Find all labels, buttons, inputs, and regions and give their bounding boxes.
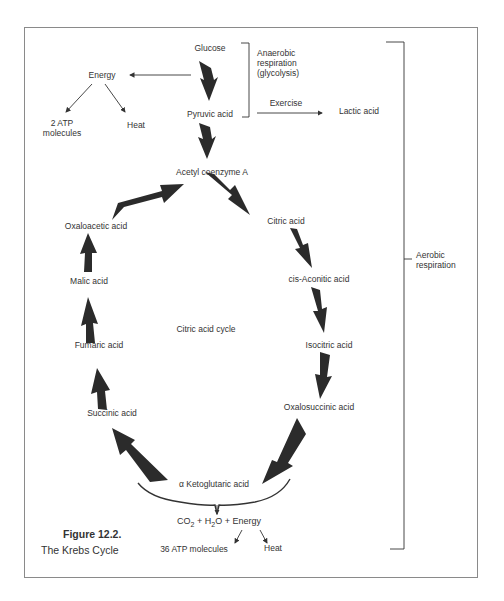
label-36-atp: 36 ATP molecules: [160, 544, 228, 554]
label-fumaric-acid: Fumaric acid: [75, 340, 124, 350]
label-aerobic-respiration: Aerobic respiration: [416, 250, 456, 270]
arrow-isocitric-oxalosuccinic: [315, 352, 332, 399]
arrow-oxalosuccinic-ketoglutaric: [262, 418, 306, 484]
label-energy: Energy: [89, 70, 116, 80]
arrow-succinic-fumaric: [91, 368, 110, 410]
figure-title: The Krebs Cycle: [41, 544, 119, 556]
arrow-citric-cisaconitic: [290, 228, 312, 268]
arrow-fumaric-malic: [81, 297, 98, 343]
arrow-pyruvic-acetyl: [198, 123, 216, 159]
label-citric-acid: Citric acid: [267, 216, 304, 226]
label-pyruvic-acid: Pyruvic acid: [187, 109, 233, 119]
label-heat-glycolysis: Heat: [127, 120, 145, 130]
label-cis-aconitic-acid: cis-Aconitic acid: [289, 274, 350, 284]
label-exercise: Exercise: [270, 98, 303, 108]
krebs-cycle-arrows: [0, 0, 504, 601]
label-glucose: Glucose: [194, 43, 225, 53]
figure-number: Figure 12.2.: [63, 528, 121, 540]
arrow-ketoglutaric-succinic: [112, 428, 168, 482]
label-citric-acid-cycle: Citric acid cycle: [176, 324, 235, 334]
label-oxaloacetic-acid: Oxaloacetic acid: [65, 221, 127, 231]
arrow-malic-oxaloacetic: [80, 233, 97, 272]
arrow-acetyl-citric: [205, 172, 250, 215]
label-acetyl-coa: Acetyl coenzyme A: [176, 167, 248, 177]
label-anaerobic-respiration: Anaerobic respiration (glycolysis): [257, 48, 299, 79]
arrow-oxaloacetic-acetyl: [112, 184, 184, 220]
label-malic-acid: Malic acid: [70, 276, 108, 286]
label-products-equation: CO2 + H2O + Energy: [177, 516, 261, 529]
label-alpha-ketoglutaric-acid: α Ketoglutaric acid: [179, 479, 249, 489]
arrow-cisaconitic-isocitric: [311, 287, 327, 333]
label-2-atp: 2 ATP molecules: [43, 118, 81, 138]
label-heat-products: Heat: [264, 543, 282, 553]
arrow-glucose-pyruvic: [199, 61, 218, 101]
label-succinic-acid: Succinic acid: [87, 408, 137, 418]
label-oxalosuccinic-acid: Oxalosuccinic acid: [284, 402, 354, 412]
label-lactic-acid: Lactic acid: [339, 106, 379, 116]
label-isocitric-acid: Isocitric acid: [306, 340, 353, 350]
